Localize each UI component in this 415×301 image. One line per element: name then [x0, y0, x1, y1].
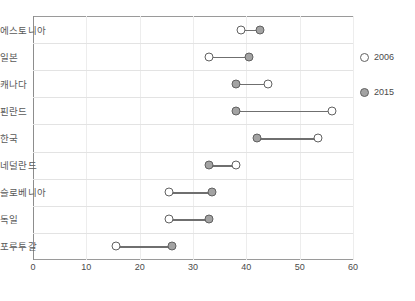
legend-label: 2006 [374, 52, 394, 62]
data-point-2006[interactable] [314, 133, 323, 142]
connector-line [257, 138, 318, 140]
plot-area: 에스토니아일본캐나다핀란드한국네덜란드슬로베니아독일포루투갈 [33, 16, 353, 260]
data-point-2015[interactable] [245, 52, 254, 61]
category-label: 핀란드 [0, 97, 92, 124]
data-point-2006[interactable] [231, 161, 240, 170]
chart-row: 에스토니아 [33, 16, 353, 43]
data-point-2006[interactable] [327, 106, 336, 115]
data-point-2006[interactable] [165, 188, 174, 197]
chart-row: 독일 [33, 206, 353, 233]
data-point-2015[interactable] [205, 215, 214, 224]
data-point-2015[interactable] [255, 25, 264, 34]
x-tick-label: 10 [81, 262, 91, 272]
chart-row: 슬로베니아 [33, 179, 353, 206]
chart-row: 포루투갈 [33, 233, 353, 260]
gridline [353, 16, 354, 260]
legend-label: 2015 [374, 87, 394, 97]
x-tick-label: 50 [295, 262, 305, 272]
data-point-2015[interactable] [253, 133, 262, 142]
chart-row: 네덜란드 [33, 152, 353, 179]
x-tick-label: 0 [30, 262, 35, 272]
x-tick-label: 30 [188, 262, 198, 272]
category-label: 네덜란드 [0, 152, 92, 179]
category-label: 독일 [0, 206, 92, 233]
category-label: 에스토니아 [0, 16, 92, 43]
filled-circle-icon [360, 88, 369, 97]
chart-row: 한국 [33, 124, 353, 151]
data-point-2006[interactable] [165, 215, 174, 224]
data-point-2015[interactable] [167, 242, 176, 251]
connector-line [116, 246, 172, 248]
category-label: 캐나다 [0, 70, 92, 97]
data-point-2015[interactable] [207, 188, 216, 197]
category-label: 포루투갈 [0, 233, 92, 260]
open-circle-icon [360, 53, 369, 62]
legend-item-2015: 2015 [360, 85, 415, 99]
chart-row: 일본 [33, 43, 353, 70]
dumbbell-chart: 에스토니아일본캐나다핀란드한국네덜란드슬로베니아독일포루투갈 010203040… [0, 0, 415, 301]
data-point-2015[interactable] [231, 79, 240, 88]
connector-line [169, 192, 212, 194]
x-tick-label: 20 [135, 262, 145, 272]
data-point-2006[interactable] [263, 79, 272, 88]
data-point-2015[interactable] [231, 106, 240, 115]
chart-legend: 2006 2015 [360, 50, 415, 120]
connector-line [169, 219, 209, 221]
x-axis: 0102030405060 [33, 262, 353, 280]
data-point-2006[interactable] [237, 25, 246, 34]
chart-row: 핀란드 [33, 97, 353, 124]
data-point-2006[interactable] [205, 52, 214, 61]
x-tick-label: 40 [241, 262, 251, 272]
data-point-2015[interactable] [205, 161, 214, 170]
x-tick-label: 60 [348, 262, 358, 272]
category-label: 일본 [0, 43, 92, 70]
connector-line [209, 57, 249, 59]
category-label: 한국 [0, 124, 92, 151]
legend-item-2006: 2006 [360, 50, 415, 64]
connector-line [236, 111, 332, 113]
chart-row: 캐나다 [33, 70, 353, 97]
data-point-2006[interactable] [111, 242, 120, 251]
category-label: 슬로베니아 [0, 179, 92, 206]
